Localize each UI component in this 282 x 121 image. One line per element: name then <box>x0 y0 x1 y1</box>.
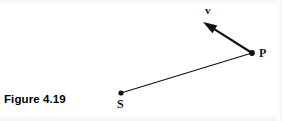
vector-v-arrowhead <box>203 22 217 33</box>
vector-v-shaft <box>212 28 252 53</box>
point-label-s: S <box>117 98 124 110</box>
segment-s-to-p <box>121 53 252 93</box>
figure-container: v P S Figure 4.19 <box>0 0 282 121</box>
diagram-geometry <box>118 22 255 96</box>
figure-caption: Figure 4.19 <box>4 94 66 106</box>
point-marker-s <box>118 90 123 95</box>
point-label-p: P <box>259 47 266 59</box>
point-marker-p <box>249 50 255 56</box>
vector-label-v: v <box>205 5 211 16</box>
